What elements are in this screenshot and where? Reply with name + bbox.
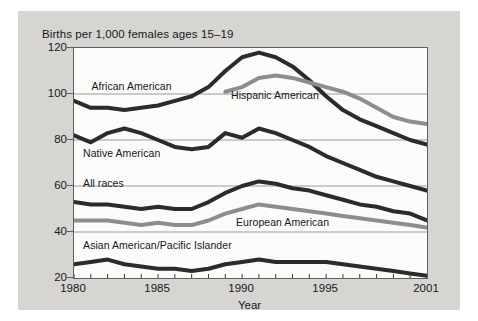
x-axis-labels: 19801985199019952001: [73, 279, 426, 297]
x-axis-title: Year: [73, 299, 426, 311]
y-tick-label: 60: [54, 179, 67, 191]
y-tick-label: 40: [54, 225, 67, 237]
series-line: [74, 181, 427, 220]
y-tick-mark: [67, 277, 73, 278]
series-label: All races: [83, 177, 124, 189]
y-tick-mark: [67, 231, 73, 232]
y-tick-mark: [67, 93, 73, 94]
chart-figure: Births per 1,000 females ages 15–19 2040…: [18, 11, 460, 310]
chart-title: Births per 1,000 females ages 15–19: [42, 28, 233, 40]
x-tick-label: 1980: [60, 282, 86, 294]
x-tick-label: 1990: [228, 282, 254, 294]
y-tick-label: 120: [48, 41, 67, 53]
x-tick-label: 1995: [312, 282, 338, 294]
series-line: [74, 129, 427, 191]
series-label: European American: [236, 216, 329, 228]
series-label: Hispanic American: [231, 89, 319, 101]
series-label: Native American: [83, 147, 160, 159]
y-tick-mark: [67, 47, 73, 48]
y-tick-mark: [67, 139, 73, 140]
series-line: [74, 260, 427, 276]
y-axis-labels: 20406080100120: [18, 47, 67, 277]
series-label: Asian American/Pacific Islander: [83, 239, 232, 251]
y-tick-mark: [67, 185, 73, 186]
x-tick-label: 2001: [413, 282, 439, 294]
y-tick-label: 100: [48, 87, 67, 99]
x-tick-label: 1985: [144, 282, 170, 294]
series-label: African American: [91, 80, 171, 92]
y-tick-label: 80: [54, 133, 67, 145]
